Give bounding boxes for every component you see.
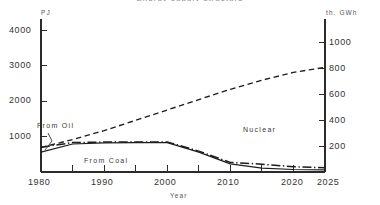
chart-canvas	[0, 0, 380, 205]
right-tick-label-800: 800	[329, 64, 346, 73]
x-tick-label-2020: 2020	[281, 178, 303, 187]
x-tick-label-2010: 2010	[217, 178, 239, 187]
right-tick-label-600: 600	[329, 90, 346, 99]
annotation-from-coal: From Coal	[84, 157, 128, 164]
right-axis-unit-label: th. GWh	[326, 10, 358, 17]
x-tick-label-2000: 2000	[154, 178, 176, 187]
right-tick-label-400: 400	[329, 116, 346, 125]
from-oil-leader-line	[45, 133, 52, 150]
annotation-nuclear: Nuclear	[243, 126, 276, 133]
series-line-nuclear	[41, 67, 325, 147]
left-tick-label-1000: 1000	[9, 132, 31, 141]
from-oil-leader-group	[45, 133, 52, 150]
x-tick-label-1990: 1990	[91, 178, 113, 187]
chart-figure: Energy supply structure	[0, 0, 380, 205]
right-tick-label-1000: 1000	[329, 38, 351, 47]
left-tick-label-2000: 2000	[9, 96, 31, 105]
left-tick-label-3000: 3000	[9, 61, 31, 70]
left-tick-label-4000: 4000	[9, 26, 31, 35]
x-axis-title: Year	[170, 193, 188, 200]
left-axis-unit-label: PJ	[41, 10, 51, 17]
right-tick-label-200: 200	[329, 142, 346, 151]
x-tick-label-2025: 2025	[317, 178, 339, 187]
x-tick-label-1980: 1980	[28, 178, 50, 187]
annotation-from-oil: From Oil	[37, 122, 74, 129]
